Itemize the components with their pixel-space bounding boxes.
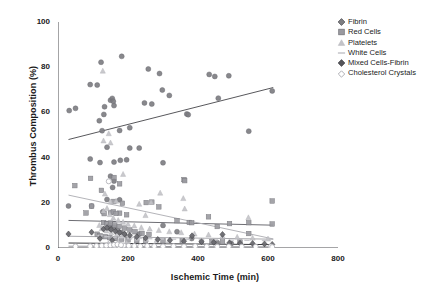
- y-tick-label: 60: [26, 107, 50, 116]
- legend-marker-icon: [336, 38, 347, 48]
- y-tick-label: 40: [26, 153, 50, 162]
- y-tick-label: 100: [26, 17, 50, 26]
- legend-item-platelets[interactable]: Platelets: [336, 38, 430, 48]
- legend-marker-icon: [336, 48, 347, 58]
- legend-item-red-cells[interactable]: Red Cells: [336, 27, 430, 37]
- legend-item-cholesterol-crystals[interactable]: Cholesterol Crystals: [336, 68, 430, 78]
- chart-legend: FibrinRed CellsPlateletsWhite CellsMixed…: [336, 17, 430, 79]
- x-tick-label: 0: [43, 254, 73, 263]
- plot-canvas: [58, 22, 338, 248]
- legend-label: White Cells: [347, 48, 386, 58]
- y-tick-label: 80: [26, 62, 50, 71]
- x-axis-title: Ischemic Time (min): [0, 272, 430, 282]
- legend-marker-icon: [336, 27, 347, 37]
- plot-area: [58, 22, 338, 248]
- legend-item-mixed-cells-fibrin[interactable]: Mixed Cells-Fibrin: [336, 58, 430, 68]
- legend-label: Red Cells: [347, 27, 381, 37]
- x-tick-label: 600: [253, 254, 283, 263]
- x-tick-label: 400: [183, 254, 213, 263]
- legend-label: Fibrin: [347, 17, 367, 27]
- legend-item-fibrin[interactable]: Fibrin: [336, 17, 430, 27]
- legend-marker-icon: [336, 69, 347, 79]
- legend-label: Cholesterol Crystals: [347, 68, 416, 78]
- y-tick-label: 0: [26, 243, 50, 252]
- legend-marker-icon: [336, 58, 347, 68]
- legend-item-white-cells[interactable]: White Cells: [336, 48, 430, 58]
- x-tick-label: 800: [323, 254, 353, 263]
- legend-marker-icon: [336, 17, 347, 27]
- scatter-plot-figure: Thrombus Composition (%) Ischemic Time (…: [0, 0, 430, 298]
- legend-label: Platelets: [347, 38, 377, 48]
- x-tick-label: 200: [113, 254, 143, 263]
- y-axis-title: Thrombus Composition (%): [28, 31, 38, 221]
- legend-label: Mixed Cells-Fibrin: [347, 58, 409, 68]
- data-points: [66, 54, 275, 248]
- y-tick-label: 20: [26, 198, 50, 207]
